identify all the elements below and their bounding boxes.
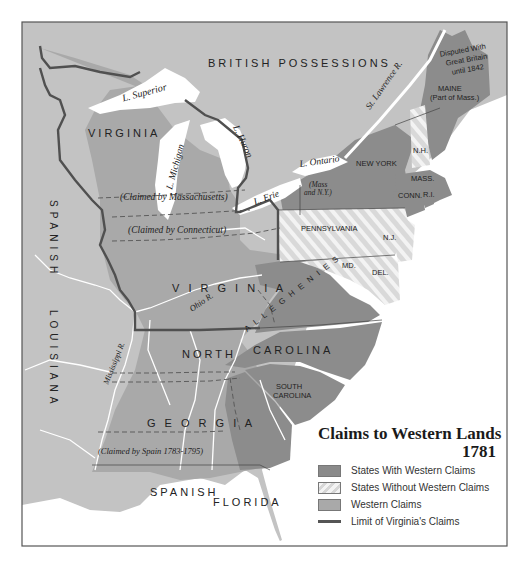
label-spanish: SPANISH [48,200,59,278]
label-south-carolina-2: CAROLINA [273,391,311,400]
legend-item-western-claims: Western Claims [318,497,508,512]
label-conn: CONN. [398,191,422,200]
label-mass-ny-2: and N.Y.) [304,188,332,197]
label-spanish-florida-1: SPANISH [150,486,218,498]
legend: Claims to Western Lands 1781 States With… [318,425,508,529]
legend-title: Claims to Western Lands [318,425,508,443]
label-del: DEL. [372,268,389,277]
swatch-light-grey [318,499,341,511]
legend-year: 1781 [318,443,508,461]
label-maine-1: MAINE [438,84,462,93]
label-nj: N.J. [383,233,396,242]
label-claimed-conn: (Claimed by Connecticut) [128,225,226,236]
label-claimed-spain: (Claimed by Spain 1783-1795) [98,446,203,456]
label-virginia-main: V I R G I N I A [172,282,286,294]
label-louisiana: LOUISIANA [48,310,59,408]
legend-label: Western Claims [351,499,421,510]
label-spanish-florida-2: FLORIDA [213,496,282,508]
label-claimed-mass: (Claimed by Massachusetts) [120,192,228,203]
label-british-possessions: BRITISH POSSESSIONS [208,57,391,69]
label-south-carolina-1: SOUTH [276,382,302,391]
label-nh: N.H. [413,146,428,155]
legend-item-states-with-claims: States With Western Claims [318,463,508,478]
label-md: MD. [342,261,356,270]
label-mass: MASS. [411,174,434,183]
label-pennsylvania: PENNSYLVANIA [301,224,357,233]
label-north-carolina-2: CAROLINA [253,344,333,356]
swatch-dark-grey [318,465,341,477]
legend-label: States Without Western Claims [351,482,489,493]
legend-label: States With Western Claims [351,465,475,476]
swatch-line [318,520,341,523]
label-north-carolina-1: NORTH [182,348,236,360]
label-new-york: NEW YORK [356,159,397,168]
legend-item-virginia-limit: Limit of Virginia's Claims [318,514,508,529]
label-maine-2: (Part of Mass.) [430,93,480,102]
swatch-hatched [318,482,341,494]
legend-label: Limit of Virginia's Claims [351,516,459,527]
label-virginia-north: VIRGINIA [88,127,160,139]
label-georgia: G E O R G I A [147,417,255,429]
label-ri: R.I. [423,190,435,199]
legend-item-states-without-claims: States Without Western Claims [318,480,508,495]
